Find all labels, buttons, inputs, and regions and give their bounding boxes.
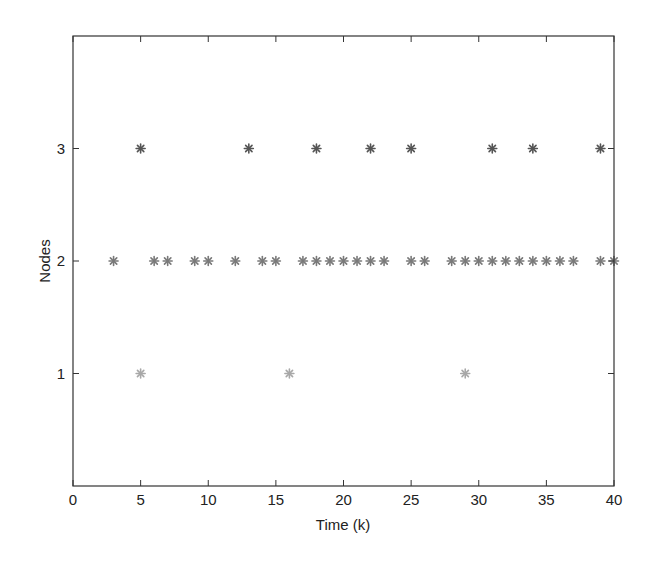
asterisk-marker (515, 257, 524, 266)
asterisk-marker (407, 144, 416, 153)
asterisk-marker (488, 144, 497, 153)
asterisk-marker (555, 257, 564, 266)
asterisk-marker (420, 257, 429, 266)
y-tick-label: 3 (57, 140, 65, 157)
asterisk-marker (190, 257, 199, 266)
asterisk-marker (109, 257, 118, 266)
asterisk-marker (312, 144, 321, 153)
x-tick-label: 0 (69, 491, 77, 508)
x-tick-label: 15 (268, 491, 285, 508)
scatter-plot: 0510152025303540 123 Time (k) Nodes (0, 0, 657, 561)
x-axis-label: Time (k) (316, 516, 370, 533)
y-tick-label: 1 (57, 365, 65, 382)
asterisk-marker (258, 257, 267, 266)
asterisk-marker (271, 257, 280, 266)
asterisk-marker (298, 257, 307, 266)
asterisk-marker (542, 257, 551, 266)
asterisk-marker (474, 257, 483, 266)
asterisk-marker (407, 257, 416, 266)
asterisk-marker (325, 257, 334, 266)
y-tick-label: 2 (57, 252, 65, 269)
asterisk-marker (366, 257, 375, 266)
asterisk-marker (447, 257, 456, 266)
x-tick-label: 40 (606, 491, 623, 508)
data-markers (109, 144, 618, 378)
x-axis-ticks: 0510152025303540 (69, 36, 623, 508)
asterisk-marker (461, 257, 470, 266)
asterisk-marker (528, 144, 537, 153)
x-tick-label: 20 (335, 491, 352, 508)
x-tick-label: 35 (538, 491, 555, 508)
asterisk-marker (461, 369, 470, 378)
asterisk-marker (596, 144, 605, 153)
asterisk-marker (353, 257, 362, 266)
x-tick-label: 5 (136, 491, 144, 508)
chart: 0510152025303540 123 Time (k) Nodes (0, 0, 657, 561)
asterisk-marker (244, 144, 253, 153)
asterisk-marker (488, 257, 497, 266)
asterisk-marker (312, 257, 321, 266)
asterisk-marker (596, 257, 605, 266)
asterisk-marker (501, 257, 510, 266)
asterisk-marker (380, 257, 389, 266)
x-tick-label: 25 (403, 491, 420, 508)
asterisk-marker (150, 257, 159, 266)
asterisk-marker (231, 257, 240, 266)
asterisk-marker (569, 257, 578, 266)
asterisk-marker (285, 369, 294, 378)
asterisk-marker (366, 144, 375, 153)
asterisk-marker (136, 369, 145, 378)
asterisk-marker (339, 257, 348, 266)
y-axis-label: Nodes (36, 239, 53, 282)
asterisk-marker (136, 144, 145, 153)
x-tick-label: 30 (470, 491, 487, 508)
asterisk-marker (528, 257, 537, 266)
asterisk-marker (204, 257, 213, 266)
x-tick-label: 10 (200, 491, 217, 508)
asterisk-marker (163, 257, 172, 266)
